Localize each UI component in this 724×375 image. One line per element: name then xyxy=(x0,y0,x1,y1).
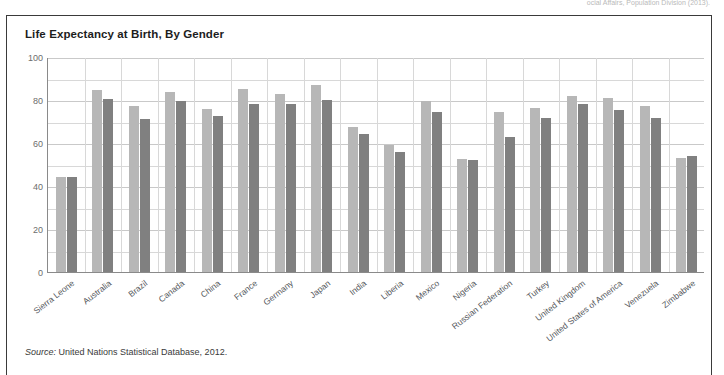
bar-group xyxy=(121,58,158,272)
x-tick-label: Germany xyxy=(262,278,296,307)
bar-female xyxy=(311,85,321,272)
bar-group xyxy=(267,58,304,272)
bar-female xyxy=(457,159,467,272)
bar-group xyxy=(85,58,122,272)
bar-male xyxy=(249,104,259,272)
bar-male xyxy=(286,104,296,272)
figure-frame: Life Expectancy at Birth, By Gender 0204… xyxy=(6,15,712,375)
x-tick-label: Japan xyxy=(307,278,331,300)
bar-group xyxy=(304,58,341,272)
bar-group xyxy=(231,58,268,272)
y-tick-label: 40 xyxy=(33,182,43,192)
y-tick-label: 0 xyxy=(38,268,43,278)
x-tick-label: Zimbabwe xyxy=(660,278,697,310)
bar-male xyxy=(67,177,77,272)
bar-group xyxy=(450,58,487,272)
source-label: Source: xyxy=(25,347,56,357)
bar-female xyxy=(421,101,431,272)
bar-female xyxy=(640,106,650,272)
bar-female xyxy=(165,92,175,272)
top-cut-caption: ocial Affairs, Population Division (2013… xyxy=(0,0,724,7)
bar-group xyxy=(632,58,669,272)
bar-male xyxy=(432,112,442,272)
x-tick-label: Liberia xyxy=(379,278,405,302)
bar-female xyxy=(202,109,212,272)
bar-group xyxy=(48,58,85,272)
bar-female xyxy=(494,112,504,272)
bar-female xyxy=(275,94,285,272)
y-tick-label: 80 xyxy=(33,96,43,106)
x-tick-label: Sierra Leone xyxy=(32,278,77,316)
bar-group xyxy=(596,58,633,272)
bar-male xyxy=(687,156,697,272)
bar-group xyxy=(194,58,231,272)
plot-area: 020406080100 xyxy=(47,58,704,273)
y-tick-label: 100 xyxy=(28,53,43,63)
x-tick-label: Turkey xyxy=(525,278,551,302)
bar-female xyxy=(384,145,394,272)
x-tick-label: Nigeria xyxy=(451,278,478,302)
bar-female xyxy=(129,106,139,272)
bar-male xyxy=(395,152,405,272)
bar-group xyxy=(523,58,560,272)
bar-female xyxy=(530,108,540,272)
source-note: Source: United Nations Statistical Datab… xyxy=(25,347,227,357)
x-tick-label: China xyxy=(199,278,223,300)
bar-group xyxy=(158,58,195,272)
bar-male xyxy=(103,99,113,272)
bar-female xyxy=(567,96,577,272)
x-tick-label: Mexico xyxy=(414,278,441,302)
source-text: United Nations Statistical Database, 201… xyxy=(59,347,228,357)
bar-group xyxy=(486,58,523,272)
chart-title: Life Expectancy at Birth, By Gender xyxy=(25,28,224,40)
bar-female xyxy=(56,177,66,272)
bar-male xyxy=(322,100,332,272)
x-tick-label: Australia xyxy=(81,278,113,306)
bar-group xyxy=(377,58,414,272)
x-tick-label: India xyxy=(348,278,369,297)
x-tick-label: France xyxy=(232,278,259,302)
bar-male xyxy=(140,119,150,272)
bar-female xyxy=(92,90,102,272)
x-tick-label: Venezuela xyxy=(623,278,660,310)
bar-male xyxy=(176,101,186,272)
bar-female xyxy=(238,89,248,272)
y-tick-label: 60 xyxy=(33,139,43,149)
x-tick-label: Brazil xyxy=(126,278,149,299)
bar-male xyxy=(578,104,588,272)
x-tick-label: Canada xyxy=(156,278,186,304)
bar-male xyxy=(505,137,515,272)
bar-group xyxy=(340,58,377,272)
plot-wrapper: 020406080100 xyxy=(47,58,704,273)
bar-female xyxy=(348,127,358,272)
bar-male xyxy=(213,116,223,272)
bar-series-layer xyxy=(48,58,704,272)
bar-female xyxy=(603,98,613,272)
bar-male xyxy=(468,160,478,272)
x-axis-category-labels: Sierra LeoneAustraliaBrazilCanadaChinaFr… xyxy=(47,274,704,344)
bar-group xyxy=(413,58,450,272)
y-tick-label: 20 xyxy=(33,225,43,235)
bar-male xyxy=(359,134,369,272)
